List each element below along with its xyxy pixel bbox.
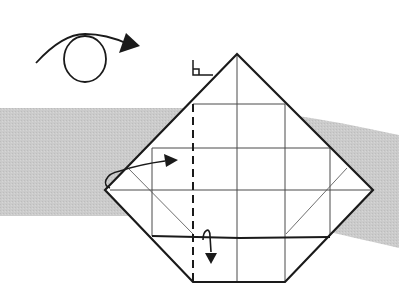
turn-over-icon	[36, 33, 140, 82]
origami-diagram	[0, 0, 399, 299]
right-angle-icon	[193, 60, 213, 75]
paper-shape	[105, 54, 373, 282]
